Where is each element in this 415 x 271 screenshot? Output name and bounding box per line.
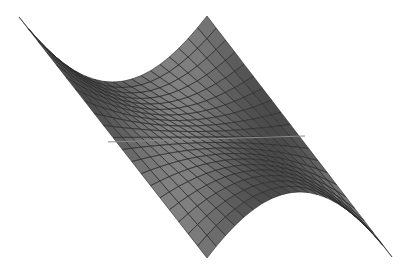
surface-patch [38,41,57,61]
surface-plot [0,0,415,271]
surface-patch [374,235,393,258]
surface-mesh [19,16,392,258]
surface-patch [47,50,66,68]
